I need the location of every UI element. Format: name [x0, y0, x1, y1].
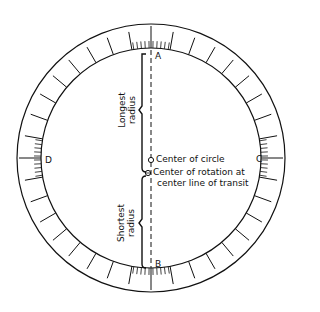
- major-tick: [246, 94, 262, 103]
- major-tick: [222, 60, 234, 74]
- major-tick: [170, 32, 173, 50]
- center-of-rotation-label-line2: center line of transit: [157, 179, 249, 188]
- major-tick: [254, 114, 271, 120]
- minor-tick: [137, 42, 138, 49]
- major-tick: [254, 196, 271, 202]
- major-tick: [259, 136, 277, 139]
- minor-tick: [34, 148, 41, 149]
- major-tick: [53, 229, 67, 241]
- minor-tick: [164, 267, 165, 274]
- minor-tick: [261, 168, 268, 169]
- major-tick: [107, 38, 113, 55]
- shortest-radius-line2: radius: [127, 195, 137, 251]
- major-tick: [246, 213, 262, 222]
- minor-tick: [141, 268, 142, 275]
- major-tick: [25, 177, 43, 180]
- major-tick: [69, 242, 81, 256]
- minor-tick: [141, 41, 142, 48]
- major-tick: [69, 60, 81, 74]
- longest-radius-bracket: [139, 54, 146, 172]
- major-tick: [222, 242, 234, 256]
- minor-tick: [137, 267, 138, 274]
- point-label-a: A: [155, 52, 161, 61]
- minor-tick: [260, 175, 267, 176]
- minor-tick: [34, 168, 41, 169]
- minor-tick: [35, 175, 42, 176]
- major-tick: [31, 114, 48, 120]
- major-tick: [87, 47, 96, 63]
- minor-tick: [164, 42, 165, 49]
- major-tick: [40, 94, 56, 103]
- major-tick: [40, 213, 56, 222]
- major-tick: [235, 76, 249, 88]
- minor-tick: [161, 41, 162, 48]
- longest-radius-line2: radius: [128, 85, 138, 135]
- major-tick: [189, 38, 195, 55]
- minor-tick: [168, 42, 169, 49]
- major-tick: [189, 261, 195, 278]
- point-label-b: B: [155, 260, 161, 269]
- longest-radius-label: Longest radius: [118, 85, 140, 135]
- major-tick: [129, 266, 132, 284]
- point-label-c: C: [256, 155, 262, 164]
- minor-tick: [35, 140, 42, 141]
- major-tick: [31, 196, 48, 202]
- minor-tick: [261, 148, 268, 149]
- minor-tick: [35, 171, 42, 172]
- minor-tick: [260, 140, 267, 141]
- center-of-circle-label: Center of circle: [156, 155, 225, 164]
- minor-tick: [35, 144, 42, 145]
- minor-tick: [260, 171, 267, 172]
- major-tick: [259, 177, 277, 180]
- point-label-d: D: [45, 156, 52, 165]
- major-tick: [87, 253, 96, 269]
- minor-tick: [133, 267, 134, 274]
- major-tick: [25, 136, 43, 139]
- minor-tick: [133, 42, 134, 49]
- major-tick: [129, 32, 132, 50]
- major-tick: [206, 47, 215, 63]
- major-tick: [53, 76, 67, 88]
- major-tick: [235, 229, 249, 241]
- major-tick: [206, 253, 215, 269]
- center-of-rotation-label-line1: Center of rotation at: [153, 168, 245, 177]
- minor-tick: [260, 144, 267, 145]
- shortest-radius-bracket: [139, 176, 146, 268]
- center-of-circle-marker: [148, 157, 153, 162]
- shortest-radius-label: Shortest radius: [117, 195, 139, 251]
- minor-tick: [168, 267, 169, 274]
- major-tick: [107, 261, 113, 278]
- major-tick: [170, 266, 173, 284]
